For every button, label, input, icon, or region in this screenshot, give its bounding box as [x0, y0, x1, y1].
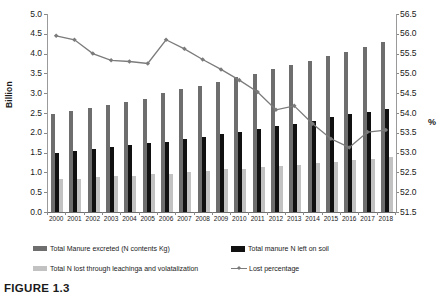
- x-axis-tick-mark: [157, 212, 158, 215]
- x-axis-tick-mark: [285, 212, 286, 215]
- legend-swatch-lost-icon: [33, 266, 47, 271]
- y-axis-left-tick-label: 3.5: [18, 69, 42, 78]
- legend-label-left-on-soil: Total manure N left on soil: [248, 245, 329, 252]
- y-axis-right-tick-label: 53.5: [400, 128, 426, 137]
- y-axis-left-tick-label: 1.0: [18, 168, 42, 177]
- x-axis-tick-mark: [340, 212, 341, 215]
- x-axis-tick-mark: [84, 212, 85, 215]
- x-axis-tick-mark: [194, 212, 195, 215]
- y-axis-left-title: Billion: [4, 94, 14, 108]
- y-axis-left-tick-label: 5.0: [18, 10, 42, 19]
- y-axis-left-tick-label: 4.0: [18, 49, 42, 58]
- x-axis-line: [47, 212, 396, 213]
- y-axis-right-tick-label: 54.5: [400, 89, 426, 98]
- x-axis-tick-mark: [47, 212, 48, 215]
- x-axis-tick-mark: [303, 212, 304, 215]
- legend-item-total-manure-excreted: Total Manure excreted (N contents Kg): [33, 245, 170, 252]
- legend-item-n-lost-leaching: Total N lost through leachinga and volat…: [33, 265, 198, 272]
- figure-caption: FIGURE 1.3: [4, 282, 70, 294]
- x-axis-tick-mark: [102, 212, 103, 215]
- lost-percentage-marker: [109, 58, 114, 63]
- lost-percentage-line-series: [47, 14, 395, 212]
- legend-item-lost-percentage: Lost percentage: [231, 265, 299, 272]
- x-axis-tick-mark: [322, 212, 323, 215]
- y-axis-right-tick-label: 56.0: [400, 29, 426, 38]
- x-axis-tick-mark: [395, 212, 396, 215]
- x-axis-tick-mark: [358, 212, 359, 215]
- chart-area: Billion % 0.00.51.01.52.02.53.03.54.04.5…: [0, 0, 445, 240]
- x-axis-tick-mark: [248, 212, 249, 215]
- y-axis-right-title: %: [428, 117, 436, 127]
- y-axis-right-tick-label: 51.5: [400, 208, 426, 217]
- y-axis-left-tick-label: 3.0: [18, 89, 42, 98]
- figure-container: Billion % 0.00.51.01.52.02.53.03.54.04.5…: [0, 0, 445, 301]
- y-axis-right-tick-label: 56.5: [400, 10, 426, 19]
- y-axis-left-tick-label: 4.5: [18, 29, 42, 38]
- x-axis-tick-mark: [139, 212, 140, 215]
- x-axis-tick-mark: [175, 212, 176, 215]
- lost-percentage-marker: [54, 34, 59, 39]
- x-axis-tick-mark: [230, 212, 231, 215]
- x-axis-tick-label: 2018: [373, 215, 399, 222]
- legend-line-marker-icon: [231, 265, 247, 272]
- x-axis-tick-mark: [267, 212, 268, 215]
- y-axis-right-tick-mark: [396, 212, 399, 213]
- x-axis-tick-mark: [212, 212, 213, 215]
- legend-label-lost-percentage: Lost percentage: [249, 265, 299, 272]
- lost-percentage-line: [56, 36, 386, 148]
- y-axis-right-tick-label: 52.5: [400, 168, 426, 177]
- y-axis-left-tick-label: 0.0: [18, 208, 42, 217]
- lost-percentage-marker: [127, 59, 132, 64]
- x-axis-tick-mark: [120, 212, 121, 215]
- y-axis-right-tick-label: 53.0: [400, 148, 426, 157]
- lost-percentage-marker: [384, 128, 389, 133]
- y-axis-left-tick-label: 2.5: [18, 109, 42, 118]
- legend-label-lost: Total N lost through leachinga and volat…: [50, 265, 198, 272]
- y-axis-right-tick-label: 55.0: [400, 69, 426, 78]
- y-axis-right-tick-label: 55.5: [400, 49, 426, 58]
- y-axis-right-tick-label: 54.0: [400, 109, 426, 118]
- chart-legend: Total Manure excreted (N contents Kg) To…: [0, 243, 445, 283]
- legend-label-excreted: Total Manure excreted (N contents Kg): [50, 245, 170, 252]
- legend-swatch-left-on-soil-icon: [231, 246, 245, 252]
- legend-swatch-excreted-icon: [33, 246, 47, 251]
- x-axis-tick-mark: [65, 212, 66, 215]
- legend-item-manure-n-left-on-soil: Total manure N left on soil: [231, 245, 329, 252]
- y-axis-right-tick-label: 52.0: [400, 188, 426, 197]
- y-axis-left-tick-label: 0.5: [18, 188, 42, 197]
- x-axis-tick-mark: [377, 212, 378, 215]
- y-axis-left-tick-label: 1.5: [18, 148, 42, 157]
- y-axis-left-tick-label: 2.0: [18, 128, 42, 137]
